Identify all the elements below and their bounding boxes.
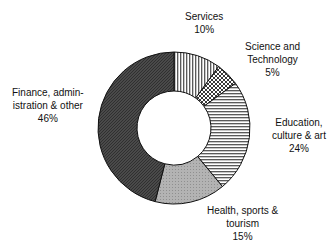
- label-science-pct: 5%: [245, 66, 300, 79]
- label-education: Education, culture & art 24%: [272, 116, 326, 155]
- label-science: Science and Technology 5%: [245, 40, 300, 79]
- label-finance: Finance, admin- istration & other 46%: [12, 86, 84, 125]
- label-services: Services 10%: [185, 10, 223, 36]
- label-health-name-2: tourism: [207, 217, 278, 230]
- label-finance-pct: 46%: [12, 112, 84, 125]
- label-finance-name-2: istration & other: [12, 99, 84, 112]
- label-services-pct: 10%: [185, 23, 223, 36]
- label-education-pct: 24%: [272, 142, 326, 155]
- label-health-name-1: Health, sports &: [207, 204, 278, 217]
- label-science-name-1: Science and: [245, 40, 300, 53]
- label-education-name-1: Education,: [272, 116, 326, 129]
- label-services-name: Services: [185, 10, 223, 23]
- label-education-name-2: culture & art: [272, 129, 326, 142]
- label-finance-name-1: Finance, admin-: [12, 86, 84, 99]
- label-health: Health, sports & tourism 15%: [207, 204, 278, 243]
- label-health-pct: 15%: [207, 230, 278, 243]
- label-science-name-2: Technology: [245, 53, 300, 66]
